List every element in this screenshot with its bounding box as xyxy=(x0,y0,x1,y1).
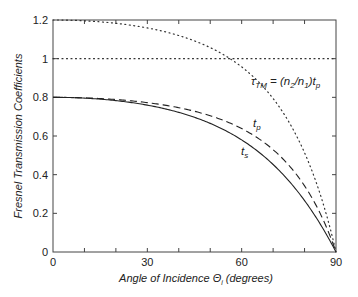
y-tick-label: 0.6 xyxy=(33,130,48,142)
y-axis-label: Fresnel Transmission Coefficients xyxy=(12,53,24,218)
plot-frame xyxy=(53,20,336,252)
tau-tm-label: τTM = (n2/n1)tp xyxy=(251,75,321,90)
fresnel-chart: 030609000.20.40.60.811.2 Fresnel Transmi… xyxy=(0,0,358,297)
y-tick-label: 1.2 xyxy=(33,14,48,26)
axis-ticks xyxy=(53,20,336,252)
ts-label: ts xyxy=(241,145,248,160)
y-tick-label: 0.4 xyxy=(33,169,48,181)
curves xyxy=(53,20,336,252)
tick-labels: 030609000.20.40.60.811.2 xyxy=(33,14,342,268)
tp-label: tp xyxy=(253,117,261,132)
x-tick-label: 90 xyxy=(330,256,342,268)
y-tick-label: 0.2 xyxy=(33,207,48,219)
y-tick-label: 0 xyxy=(42,246,48,258)
x-tick-label: 0 xyxy=(50,256,56,268)
ts-curve xyxy=(53,97,336,252)
y-tick-label: 1 xyxy=(42,53,48,65)
tau-tm-curve xyxy=(53,20,336,252)
x-tick-label: 30 xyxy=(141,256,153,268)
tp-curve xyxy=(53,97,336,252)
y-tick-label: 0.8 xyxy=(33,91,48,103)
x-axis-label: Angle of Incidence Θi (degrees) xyxy=(118,272,273,286)
x-tick-label: 60 xyxy=(236,256,248,268)
